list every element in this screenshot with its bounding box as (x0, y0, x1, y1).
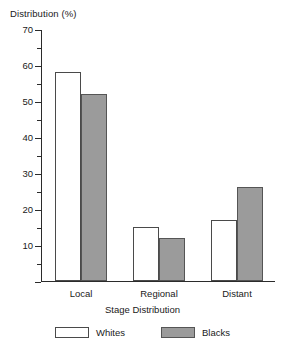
white-swatch (55, 327, 89, 338)
x-axis-label-distant: Distant (222, 288, 252, 299)
y-tick-major-40 (35, 138, 41, 139)
y-tick-minor-5 (37, 264, 41, 265)
y-tick-minor-45 (37, 120, 41, 121)
y-tick-label-60: 60 (22, 61, 33, 71)
y-tick-label-10: 10 (22, 241, 33, 251)
y-tick-minor-35 (37, 156, 41, 157)
y-tick-major-50 (35, 102, 41, 103)
y-tick-major-30 (35, 174, 41, 175)
y-tick-label-30: 30 (22, 169, 33, 179)
legend-item-whites: Whites (55, 327, 125, 338)
x-axis-label-local: Local (70, 288, 93, 299)
y-tick-label-50: 50 (22, 97, 33, 107)
legend-item-blacks: Blacks (161, 327, 230, 338)
y-tick-major-60 (35, 66, 41, 67)
y-tick-major-20 (35, 210, 41, 211)
y-tick-minor-65 (37, 48, 41, 49)
y-tick-minor-55 (37, 84, 41, 85)
bar-local-whites (55, 72, 81, 281)
bars-layer (42, 30, 275, 281)
x-axis-title: Stage Distribution (0, 304, 285, 315)
gray-swatch (161, 327, 195, 338)
plot-area: 10203040506070 (41, 30, 275, 282)
bar-regional-whites (133, 227, 159, 281)
y-axis-title: Distribution (%) (10, 8, 77, 19)
bar-local-blacks (81, 94, 107, 281)
y-tick-minor-15 (37, 228, 41, 229)
y-tick-label-70: 70 (22, 25, 33, 35)
y-tick-major-70 (35, 30, 41, 31)
legend-label-blacks: Blacks (202, 327, 230, 338)
x-axis-label-regional: Regional (140, 288, 178, 299)
y-tick-label-40: 40 (22, 133, 33, 143)
chart-legend: WhitesBlacks (0, 327, 285, 338)
y-tick-major-10 (35, 246, 41, 247)
bar-distant-blacks (237, 187, 263, 281)
y-tick-minor-25 (37, 192, 41, 193)
bar-chart-figure: Distribution (%) 10203040506070 LocalReg… (0, 0, 285, 350)
y-tick-label-20: 20 (22, 205, 33, 215)
legend-label-whites: Whites (96, 327, 125, 338)
bar-regional-blacks (159, 238, 185, 281)
y-tick-major-0 (35, 282, 41, 283)
bar-distant-whites (211, 220, 237, 281)
x-axis-line (41, 281, 275, 282)
